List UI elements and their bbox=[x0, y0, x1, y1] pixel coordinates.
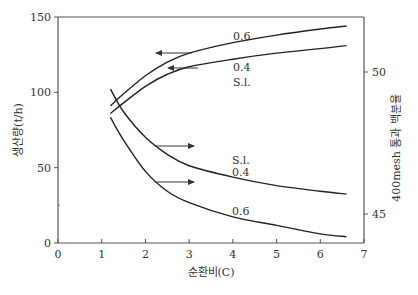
series-curve bbox=[110, 26, 346, 106]
curve-label: 0.4 bbox=[232, 166, 250, 179]
x-tick-label: 3 bbox=[186, 248, 193, 261]
curve-label: 0.6 bbox=[232, 205, 250, 218]
y2-tick-label: 50 bbox=[372, 66, 386, 79]
x-tick-label: 2 bbox=[142, 248, 149, 261]
y-tick-label: 0 bbox=[44, 237, 51, 250]
y-tick-label: 100 bbox=[30, 86, 51, 99]
y2-ticks: 4550 bbox=[364, 66, 386, 221]
y-ticks: 050100150 bbox=[30, 11, 60, 250]
curve-label: S.l. bbox=[233, 76, 251, 89]
curve-label: 0.4 bbox=[233, 61, 251, 74]
y-axis-title: 생산량(t/h) bbox=[12, 103, 25, 157]
x-tick-label: 6 bbox=[317, 248, 324, 261]
direction-arrows bbox=[155, 53, 198, 182]
x-tick-label: 0 bbox=[55, 248, 62, 261]
y2-tick-label: 45 bbox=[372, 208, 386, 221]
y-tick-label: 150 bbox=[30, 11, 51, 24]
x-axis-title: 순환비(C) bbox=[188, 266, 235, 279]
series-curve bbox=[110, 89, 346, 194]
y2-axis-title: 400mesh 통과 백분율 bbox=[390, 94, 403, 202]
series-curve bbox=[110, 117, 346, 236]
curve-label: 0.6 bbox=[233, 30, 251, 43]
x-tick-label: 5 bbox=[273, 248, 280, 261]
x-ticks: 01234567 bbox=[55, 239, 368, 261]
curves bbox=[110, 26, 346, 237]
y-tick-label: 50 bbox=[37, 162, 51, 175]
axes-frame bbox=[58, 17, 364, 243]
x-tick-label: 7 bbox=[361, 248, 368, 261]
chart: 01234567 050100150 4550 순환비(C) 생산량(t/h) … bbox=[0, 0, 418, 295]
x-tick-label: 1 bbox=[98, 248, 105, 261]
x-tick-label: 4 bbox=[229, 248, 236, 261]
series-curve bbox=[110, 46, 346, 114]
